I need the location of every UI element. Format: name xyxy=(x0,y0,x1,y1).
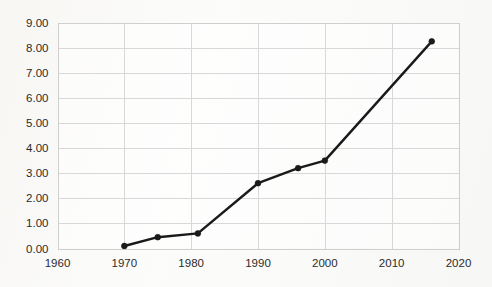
data-point-2016 xyxy=(429,38,435,44)
y-tick-label-6: 6.00 xyxy=(26,92,48,104)
y-tick-label-9: 9.00 xyxy=(26,17,48,29)
data-point-1981 xyxy=(195,231,201,237)
x-tick-label-2020: 2020 xyxy=(446,257,472,269)
y-tick-label-5: 5.00 xyxy=(26,117,48,129)
y-tick-label-2: 2.00 xyxy=(26,192,48,204)
data-point-1975 xyxy=(155,234,161,240)
y-tick-label-1: 1.00 xyxy=(26,217,48,229)
y-tick-label-8: 8.00 xyxy=(26,42,48,54)
x-tick-label-1960: 1960 xyxy=(45,257,71,269)
y-tick-label-0: 0.00 xyxy=(26,243,48,255)
x-tick-label-1970: 1970 xyxy=(112,257,138,269)
y-tick-label-7: 7.00 xyxy=(26,67,48,79)
data-point-2000 xyxy=(322,158,328,164)
data-point-1990 xyxy=(255,180,261,186)
line-chart-figure: 0.001.002.003.004.005.006.007.008.009.00… xyxy=(0,0,492,287)
x-tick-label-1980: 1980 xyxy=(178,257,204,269)
data-point-1996 xyxy=(295,165,301,171)
data-point-1970 xyxy=(121,243,127,249)
chart-canvas: 0.001.002.003.004.005.006.007.008.009.00… xyxy=(0,0,492,287)
y-tick-label-4: 4.00 xyxy=(26,142,48,154)
x-axis-tick-labels: 1960197019801990200020102020 xyxy=(45,257,472,269)
y-tick-label-3: 3.00 xyxy=(26,167,48,179)
y-axis-tick-labels: 0.001.002.003.004.005.006.007.008.009.00 xyxy=(26,17,48,255)
x-tick-label-2010: 2010 xyxy=(379,257,405,269)
x-tick-label-2000: 2000 xyxy=(312,257,338,269)
x-tick-label-1990: 1990 xyxy=(245,257,271,269)
